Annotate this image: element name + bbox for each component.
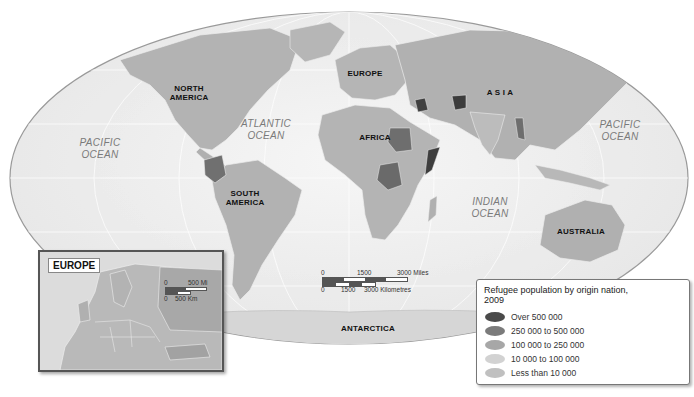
pacific-east-line1: PACIFIC: [590, 119, 650, 131]
inset-scale-mi-end: 500 Mi: [188, 279, 208, 286]
scale-miles-0: 0: [321, 269, 325, 276]
label-north-america-line2: AMERICA: [164, 93, 214, 102]
legend-swatch: [485, 368, 505, 378]
legend: Refugee population by origin nation, 200…: [476, 279, 690, 385]
atlantic-line2: OCEAN: [236, 130, 296, 142]
label-africa: AFRICA: [357, 133, 393, 142]
pacific-west-line1: PACIFIC: [70, 137, 130, 149]
label-asia: A S I A: [480, 88, 520, 97]
legend-swatch: [485, 326, 505, 336]
atlantic-line1: ATLANTIC: [236, 118, 296, 130]
label-south-america-line1: SOUTH: [220, 189, 270, 198]
legend-item: 250 000 to 500 000: [485, 325, 584, 337]
label-pacific-ocean-west: PACIFIC OCEAN: [70, 137, 130, 161]
pacific-east-line2: OCEAN: [590, 131, 650, 143]
scale-miles-end: 3000 Miles: [397, 269, 428, 276]
inset-scale-km-0: 0: [164, 295, 168, 302]
inset-scale-km-end: 500 Km: [175, 295, 197, 302]
legend-swatch: [485, 340, 505, 350]
legend-item: Less than 10 000: [485, 367, 576, 379]
label-south-america-line2: AMERICA: [220, 198, 270, 207]
label-south-america: SOUTH AMERICA: [220, 189, 270, 207]
legend-title: Refugee population by origin nation, 200…: [484, 285, 634, 305]
label-atlantic-ocean: ATLANTIC OCEAN: [236, 118, 296, 142]
label-australia: AUSTRALIA: [555, 227, 607, 236]
indian-line2: OCEAN: [465, 208, 515, 220]
inset-uk: [78, 300, 90, 322]
legend-item: Over 500 000: [485, 311, 563, 323]
legend-swatch: [485, 312, 505, 322]
legend-label: 100 000 to 250 000: [511, 340, 584, 350]
europe-inset-map: EUROPE 0 500 Mi 0 500 Km: [38, 250, 224, 372]
inset-title: EUROPE: [48, 258, 100, 273]
label-indian-ocean: INDIAN OCEAN: [465, 196, 515, 220]
pacific-west-line2: OCEAN: [70, 149, 130, 161]
label-europe: EUROPE: [345, 69, 385, 78]
label-pacific-ocean-east: PACIFIC OCEAN: [590, 119, 650, 143]
legend-label: Less than 10 000: [511, 368, 576, 378]
scale-miles-mid: 1500: [357, 269, 371, 276]
legend-label: Over 500 000: [511, 312, 563, 322]
legend-item: 10 000 to 100 000: [485, 353, 580, 365]
legend-label: 250 000 to 500 000: [511, 326, 584, 336]
legend-swatch: [485, 354, 505, 364]
label-north-america: NORTH AMERICA: [164, 84, 214, 102]
indian-line1: INDIAN: [465, 196, 515, 208]
inset-turkey: [165, 344, 210, 360]
label-antarctica: ANTARCTICA: [340, 324, 396, 333]
label-north-america-line1: NORTH: [164, 84, 214, 93]
scale-km-mid: 1500: [341, 286, 355, 293]
scale-km-end: 3000 Kilometres: [364, 286, 411, 293]
inset-scale-mi-0: 0: [164, 279, 168, 286]
scale-km-0: 0: [321, 286, 325, 293]
legend-label: 10 000 to 100 000: [511, 354, 580, 364]
legend-item: 100 000 to 250 000: [485, 339, 584, 351]
